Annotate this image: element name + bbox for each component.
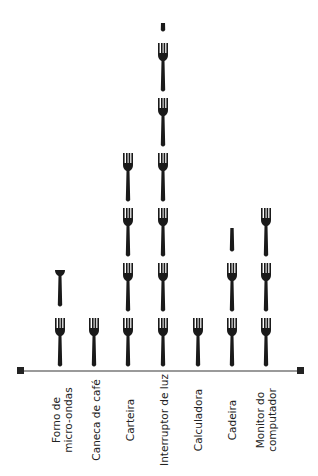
- fork-icon: [153, 153, 173, 203]
- category-label-cadeira: Cadeira: [217, 360, 247, 476]
- axis-left-endpoint: [17, 367, 24, 374]
- pictograph-column: [256, 0, 276, 370]
- axis-right-endpoint: [297, 367, 304, 374]
- pictograph-column: [84, 0, 104, 370]
- partial-fork-icon: [153, 23, 173, 33]
- fork-icon: [256, 263, 276, 313]
- fork-icon: [222, 263, 242, 313]
- partial-fork-icon: [50, 270, 70, 308]
- category-label-forno: Forno de micro-ondas: [47, 360, 77, 476]
- fork-icon: [153, 98, 173, 148]
- fork-icon: [153, 208, 173, 258]
- fork-icon: [118, 153, 138, 203]
- fork-icon: [118, 263, 138, 313]
- pictograph-column: [222, 0, 242, 370]
- category-label-carteira: Carteira: [115, 360, 145, 476]
- category-label-caneca: Caneca de café: [81, 360, 111, 476]
- fork-icon: [153, 263, 173, 313]
- category-label-interruptor: Interruptor de luz: [149, 360, 179, 476]
- pictograph-column: [153, 0, 173, 370]
- fork-icon: [118, 208, 138, 258]
- category-label-calculadora: Calculadora: [183, 360, 213, 476]
- partial-fork-icon: [222, 228, 242, 253]
- category-label-monitor: Monitor do computador: [251, 360, 281, 476]
- fork-icon: [153, 43, 173, 93]
- pictograph-column: [50, 0, 70, 370]
- fork-icon: [256, 208, 276, 258]
- pictograph-column: [188, 0, 208, 370]
- pictograph-column: [118, 0, 138, 370]
- pictograph-chart: Forno de micro-ondas Caneca de café Cart…: [0, 0, 318, 476]
